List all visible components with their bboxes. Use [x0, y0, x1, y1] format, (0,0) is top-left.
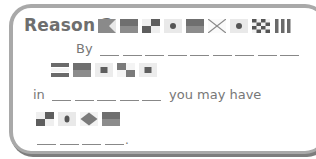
letter-blank[interactable]: [213, 54, 232, 56]
letter-blank[interactable]: [100, 54, 119, 56]
checkered-quad-flag-icon: [36, 112, 54, 126]
answer-blanks-3[interactable]: [37, 143, 127, 145]
square-center-flag-icon: [95, 63, 113, 77]
horizontal-stripes-flag-icon: [51, 63, 69, 77]
dot-flag-icon: [230, 19, 248, 33]
letter-blank[interactable]: [105, 143, 124, 145]
letter-blank[interactable]: [280, 54, 299, 56]
diamond-flag-icon: [80, 112, 98, 126]
letter-blank[interactable]: [75, 99, 94, 101]
letter-blank[interactable]: [60, 143, 79, 145]
flag-row-4: [36, 112, 124, 126]
answer-blanks-2[interactable]: [52, 99, 165, 101]
dot-flag-icon: [58, 112, 76, 126]
checkered-quad-flag-icon: [142, 19, 160, 33]
letter-blank[interactable]: [120, 99, 139, 101]
letter-blank[interactable]: [123, 54, 142, 56]
letter-blank[interactable]: [168, 54, 187, 56]
flag-row-2: [51, 63, 161, 77]
letter-blank[interactable]: [235, 54, 254, 56]
solid-band-flag-icon: [73, 63, 91, 77]
by-label: By: [76, 41, 93, 56]
letter-blank[interactable]: [37, 143, 56, 145]
letter-blank[interactable]: [97, 99, 116, 101]
letter-blank[interactable]: [190, 54, 209, 56]
letter-blank[interactable]: [258, 54, 277, 56]
checkered-quad-flag-icon: [117, 63, 135, 77]
letter-blank[interactable]: [145, 54, 164, 56]
x-cross-flag-icon: [208, 19, 226, 33]
checkerboard-flag-icon: [252, 19, 270, 33]
vertical-stripes-flag-icon: [274, 19, 292, 33]
you-may-have-label: you may have: [169, 87, 261, 102]
solid-band-flag-icon: [102, 112, 120, 126]
square-center-flag-icon: [139, 63, 157, 77]
solid-band-flag-icon: [120, 19, 138, 33]
answer-blanks-1[interactable]: [100, 54, 303, 56]
solid-band-flag-icon: [186, 19, 204, 33]
sentence-period: .: [125, 133, 129, 147]
dot-flag-icon: [164, 19, 182, 33]
letter-blank[interactable]: [82, 143, 101, 145]
pennant-notched-flag-icon: [98, 19, 116, 33]
in-label: in: [33, 87, 45, 102]
letter-blank[interactable]: [142, 99, 161, 101]
title-flag-row: [98, 19, 296, 33]
letter-blank[interactable]: [52, 99, 71, 101]
